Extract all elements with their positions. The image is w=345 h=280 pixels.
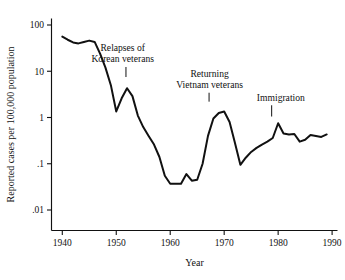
x-tick-label: 1990 — [323, 238, 342, 248]
x-tick-label: 1950 — [107, 238, 126, 248]
x-tick-label: 1980 — [269, 238, 288, 248]
y-tick-label: 1 — [39, 113, 44, 123]
x-tick-label: 1940 — [53, 238, 72, 248]
annotation-label-line: Relapses of — [100, 42, 145, 53]
annotation-2: ReturningVietnam veterans — [176, 68, 243, 102]
x-tick-label: 1970 — [215, 238, 234, 248]
annotation-label-line: Returning — [190, 68, 229, 79]
y-tick-label: .01 — [32, 205, 44, 215]
y-axis-tick-labels: .01.1110100 — [30, 20, 45, 215]
annotation-label-line: Korean veterans — [91, 53, 154, 64]
chart-figure: .01.1110100 194019501960197019801990 Rep… — [0, 0, 345, 280]
x-axis-title: Year — [185, 257, 204, 268]
annotation-3: Immigration — [257, 92, 305, 117]
y-tick-label: 10 — [35, 67, 45, 77]
annotations-group: Relapses ofKorean veteransReturningVietn… — [91, 42, 305, 116]
x-tick-label: 1960 — [161, 238, 180, 248]
annotation-label-line: Vietnam veterans — [176, 79, 243, 90]
plot-axes — [47, 19, 338, 236]
y-tick-label: 100 — [30, 20, 45, 30]
y-axis-title: Reported cases per 100,000 population — [5, 47, 16, 203]
y-tick-label: .1 — [37, 159, 44, 169]
annotation-1: Relapses ofKorean veterans — [91, 42, 154, 77]
annotation-label-line: Immigration — [257, 92, 305, 103]
x-axis-tick-labels: 194019501960197019801990 — [53, 238, 342, 248]
reported-cases-line-chart: .01.1110100 194019501960197019801990 Rep… — [0, 0, 345, 280]
